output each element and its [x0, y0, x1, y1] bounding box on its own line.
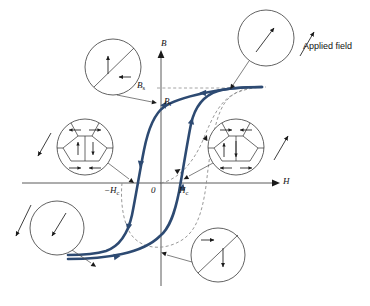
inset-right-multi-domain [182, 119, 264, 181]
neg-hc-main: −H [104, 185, 117, 195]
field-arrow-mid-right [274, 136, 288, 160]
leader-head-upper-left [152, 100, 158, 106]
hysteresis-figure: B H 0 Bs Br −Hc Hc Applied field [0, 0, 370, 306]
field-arrow-mid-left [38, 133, 51, 156]
x-axis-arrowhead [272, 180, 280, 187]
inset-upper-left-two-domain [85, 39, 157, 105]
br-label: Br [164, 97, 172, 106]
field-arrow-lower-left [16, 205, 31, 236]
inset-left-multi-domain [57, 119, 135, 185]
y-axis-arrowhead [158, 50, 165, 58]
br-label-sub: r [170, 100, 172, 107]
bs-label-sub: s [143, 84, 146, 91]
br-label-main: B [164, 96, 170, 106]
leader-mid-left [108, 163, 129, 179]
inset-lower-right-two-domain [161, 228, 245, 282]
x-axis-label: H [283, 177, 290, 186]
positive-coercivity-label: Hc [179, 186, 188, 195]
leader-lower-right [167, 255, 192, 262]
bs-label-main: B [137, 80, 143, 90]
leader-head-mid-right [182, 175, 189, 182]
leader-head-lower-left [91, 262, 98, 269]
loop-arrow-upper-right [199, 89, 206, 96]
leader-mid-right [189, 163, 213, 176]
leader-upper-left [117, 95, 152, 102]
bs-label: Bs [137, 81, 145, 90]
applied-field-label: Applied field [303, 42, 352, 51]
y-axis-label: B [161, 39, 167, 48]
inset-upper-right-saturated [228, 10, 294, 90]
neg-hc-sub: c [117, 189, 120, 196]
origin-label: 0 [151, 186, 156, 195]
leader-head-mid-left [129, 178, 136, 185]
pos-hc-sub: c [186, 189, 189, 196]
inset-circle-upper-left [85, 39, 141, 95]
leader-upper-right [233, 61, 249, 85]
leader-lower-left [72, 250, 91, 263]
pos-hc-main: H [179, 185, 186, 195]
negative-coercivity-label: −Hc [104, 186, 119, 195]
